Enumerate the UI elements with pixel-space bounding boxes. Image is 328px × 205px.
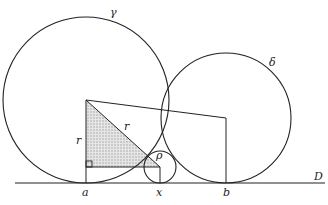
shaded-triangle <box>86 100 160 167</box>
label-delta: δ <box>269 56 276 69</box>
diagram-canvas: γ δ ρ r r a x b D <box>0 0 328 205</box>
label-x: x <box>156 186 163 199</box>
label-r-hypotenuse: r <box>124 120 130 133</box>
label-rho: ρ <box>155 149 163 162</box>
geometry-figure: γ δ ρ r r a x b D <box>0 0 328 205</box>
label-D: D <box>313 170 323 183</box>
label-a: a <box>82 186 89 199</box>
label-b: b <box>223 186 230 199</box>
center-connector <box>86 100 226 118</box>
label-r-vertical: r <box>76 134 82 147</box>
label-gamma: γ <box>110 6 117 19</box>
